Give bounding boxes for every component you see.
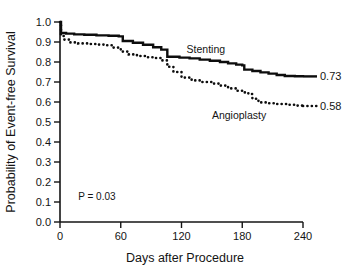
p-value: P = 0.03 — [78, 191, 116, 202]
y-tick-label: 0.4 — [36, 136, 51, 148]
x-tick-label: 60 — [115, 230, 127, 242]
y-axis-ticks: 0.00.10.20.30.40.50.60.70.80.91.0 — [36, 16, 60, 228]
end-value-label-angioplasty: 0.58 — [320, 100, 341, 112]
x-tick-label: 0 — [57, 230, 63, 242]
series-curve-stenting — [60, 22, 303, 76]
y-tick-label: 0.7 — [36, 76, 51, 88]
y-tick-label: 0.8 — [36, 56, 51, 68]
x-tick-label: 120 — [172, 230, 190, 242]
y-tick-label: 0.3 — [36, 156, 51, 168]
y-tick-label: 0.9 — [36, 36, 51, 48]
x-tick-label: 240 — [294, 230, 312, 242]
y-tick-label: 0.6 — [36, 96, 51, 108]
end-value-label-stenting: 0.73 — [320, 70, 341, 82]
chart-canvas: 0.00.10.20.30.40.50.60.70.80.91.0 060120… — [0, 0, 343, 276]
y-tick-label: 0.1 — [36, 196, 51, 208]
stenting-inline-label: Stenting — [187, 43, 226, 55]
y-tick-label: 0.5 — [36, 116, 51, 128]
x-tick-label: 180 — [233, 230, 251, 242]
y-tick-label: 1.0 — [36, 16, 51, 28]
x-axis-ticks: 060120180240 — [57, 222, 312, 242]
x-axis-title: Days after Procedure — [126, 251, 244, 265]
y-tick-label: 0.2 — [36, 176, 51, 188]
kaplan-meier-chart: 0.00.10.20.30.40.50.60.70.80.91.0 060120… — [0, 0, 343, 276]
series-layer — [60, 22, 303, 106]
angioplasty-inline-label: Angioplasty — [212, 109, 267, 121]
end-value-label-layer: 0.730.58 — [303, 70, 341, 112]
y-axis-title: Probability of Event-free Survival — [4, 31, 18, 212]
y-tick-label: 0.0 — [36, 216, 51, 228]
